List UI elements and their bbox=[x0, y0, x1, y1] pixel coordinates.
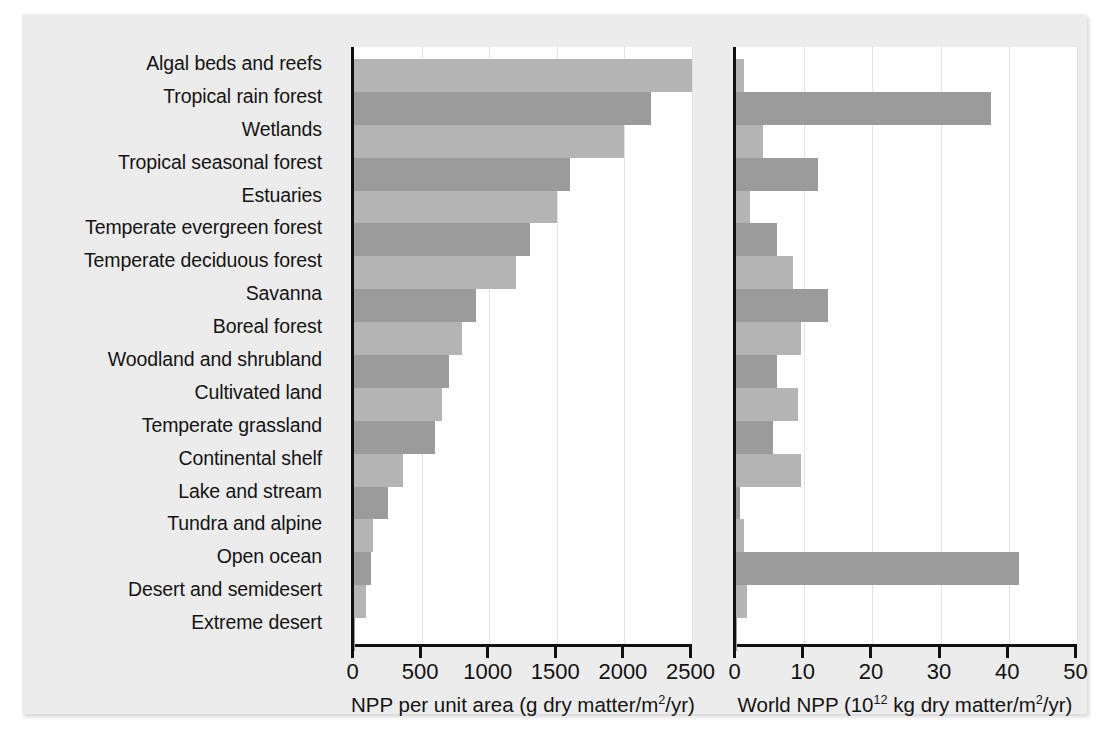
bar-row bbox=[354, 289, 692, 322]
bar bbox=[736, 388, 798, 421]
bar bbox=[354, 519, 373, 552]
bar-row bbox=[736, 92, 1077, 125]
category-label: Algal beds and reefs bbox=[22, 47, 331, 80]
category-label-column: Algal beds and reefsTropical rain forest… bbox=[22, 47, 331, 639]
bar-row bbox=[354, 585, 692, 618]
axis-tick bbox=[554, 647, 557, 658]
category-label: Tundra and alpine bbox=[22, 507, 331, 540]
bar-row bbox=[736, 519, 1077, 552]
bar-row bbox=[354, 421, 692, 454]
bar bbox=[354, 585, 366, 618]
bar-row bbox=[736, 322, 1077, 355]
axis-tick bbox=[621, 647, 624, 658]
bar bbox=[736, 322, 801, 355]
category-label: Woodland and shrubland bbox=[22, 343, 331, 376]
bar bbox=[354, 158, 570, 191]
bar-row bbox=[354, 92, 692, 125]
bar bbox=[354, 552, 371, 585]
bar-row bbox=[736, 256, 1077, 289]
gridline bbox=[1077, 47, 1078, 644]
category-label: Temperate grassland bbox=[22, 409, 331, 442]
bar bbox=[736, 191, 750, 224]
axis-tick-label: 0 bbox=[728, 659, 740, 685]
axis-tick-label: 1000 bbox=[463, 659, 512, 685]
bar bbox=[736, 454, 801, 487]
axis-tick-label: 2500 bbox=[666, 659, 715, 685]
category-label: Boreal forest bbox=[22, 310, 331, 343]
axis-tick-label: 2000 bbox=[598, 659, 647, 685]
bar-row bbox=[354, 125, 692, 158]
axis-tick bbox=[733, 647, 736, 658]
bar-row bbox=[354, 158, 692, 191]
bar-row bbox=[354, 487, 692, 520]
bars-left bbox=[354, 59, 692, 651]
bar-row bbox=[354, 552, 692, 585]
axis-tick bbox=[801, 647, 804, 658]
category-label: Temperate deciduous forest bbox=[22, 244, 331, 277]
bar bbox=[736, 92, 991, 125]
bar-row bbox=[736, 158, 1077, 191]
gridline bbox=[692, 47, 693, 644]
bar-row bbox=[736, 191, 1077, 224]
bar bbox=[354, 289, 476, 322]
axis-tick bbox=[1074, 647, 1077, 658]
bar-row bbox=[354, 322, 692, 355]
bar bbox=[354, 388, 442, 421]
bar bbox=[736, 125, 763, 158]
category-label: Temperate evergreen forest bbox=[22, 211, 331, 244]
bar bbox=[354, 223, 530, 256]
bar-row bbox=[736, 454, 1077, 487]
category-label: Continental shelf bbox=[22, 442, 331, 475]
axis-tick-label: 50 bbox=[1063, 659, 1087, 685]
bar bbox=[736, 421, 773, 454]
bar-row bbox=[354, 519, 692, 552]
category-label: Wetlands bbox=[22, 113, 331, 146]
bar bbox=[354, 487, 388, 520]
chart-left-npp-per-unit-area bbox=[351, 47, 692, 647]
bars-right bbox=[736, 59, 1077, 651]
axis-tick-label: 30 bbox=[927, 659, 951, 685]
category-label: Cultivated land bbox=[22, 376, 331, 409]
bar bbox=[354, 421, 435, 454]
bar bbox=[736, 552, 1019, 585]
bar bbox=[354, 322, 462, 355]
bar-row bbox=[736, 585, 1077, 618]
x-axis-title-right: World NPP (1012 kg dry matter/m2/yr) bbox=[733, 692, 1077, 717]
bar-row bbox=[736, 487, 1077, 520]
axis-tick bbox=[938, 647, 941, 658]
bar bbox=[736, 256, 793, 289]
bar-row bbox=[736, 223, 1077, 256]
x-axis-title-left: NPP per unit area (g dry matter/m2/yr) bbox=[351, 692, 692, 717]
bar bbox=[736, 223, 777, 256]
axis-tick bbox=[689, 647, 692, 658]
bar bbox=[736, 487, 740, 520]
bar bbox=[736, 355, 777, 388]
bar-row bbox=[354, 59, 692, 92]
axis-tick-label: 20 bbox=[859, 659, 883, 685]
axis-tick bbox=[486, 647, 489, 658]
bar-row bbox=[736, 289, 1077, 322]
category-label: Estuaries bbox=[22, 179, 331, 212]
bar bbox=[354, 92, 651, 125]
category-label: Open ocean bbox=[22, 540, 331, 573]
axis-tick-label: 40 bbox=[995, 659, 1019, 685]
category-label: Lake and stream bbox=[22, 475, 331, 508]
bar bbox=[354, 355, 449, 388]
bar-row bbox=[736, 355, 1077, 388]
bar-row bbox=[354, 355, 692, 388]
bar bbox=[354, 454, 403, 487]
bar bbox=[736, 59, 744, 92]
axis-tick-label: 500 bbox=[402, 659, 439, 685]
axis-tick bbox=[1006, 647, 1009, 658]
axis-tick bbox=[351, 647, 354, 658]
category-label: Tropical rain forest bbox=[22, 80, 331, 113]
category-label: Savanna bbox=[22, 277, 331, 310]
bar-row bbox=[736, 125, 1077, 158]
x-axis-left: 05001000150020002500 NPP per unit area (… bbox=[351, 647, 692, 707]
x-axis-right: 01020304050 World NPP (1012 kg dry matte… bbox=[733, 647, 1077, 707]
bar-row bbox=[354, 454, 692, 487]
category-label: Desert and semidesert bbox=[22, 573, 331, 606]
axis-tick bbox=[869, 647, 872, 658]
bar bbox=[736, 158, 818, 191]
bar bbox=[354, 59, 692, 92]
